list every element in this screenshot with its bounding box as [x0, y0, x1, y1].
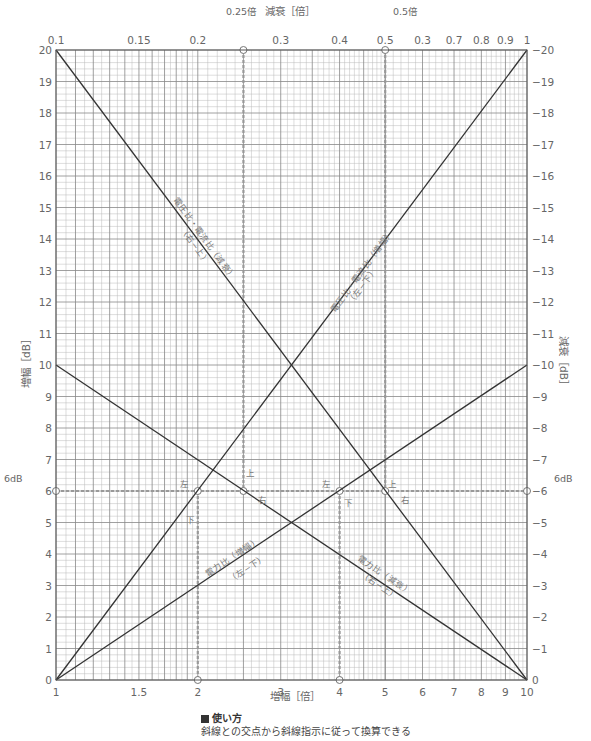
usage-note: 使い方 斜線との交点から斜線指示に従って換算できる [201, 712, 411, 738]
x-top-tick: 0.7 [446, 34, 463, 46]
callout-6db-left: 6dB [4, 473, 23, 484]
x-top-tick: 0.3 [414, 34, 431, 46]
x-bottom-tick: 1 [53, 686, 60, 698]
y-left-tick: 2 [45, 611, 52, 623]
callouts: 0.25倍 減衰［倍］ 0.5倍 増幅［倍］ 増幅［dB］ 減衰［dB］ 6dB… [4, 5, 573, 702]
y-left-tick: 6 [45, 485, 52, 497]
y-left-tick: 9 [45, 391, 52, 403]
v-att-label: 電圧比・電流比（減衰） [171, 195, 237, 281]
marker-left-4: 左 [322, 479, 331, 489]
y-right-tick: −4 [532, 548, 548, 560]
y-left-tick: 5 [45, 517, 52, 529]
usage-text: 斜線との交点から斜線指示に従って換算できる [201, 725, 411, 738]
x-top-tick: 0.8 [473, 34, 490, 46]
y-left-tick: 8 [45, 422, 52, 434]
square-bullet-icon [201, 715, 209, 723]
x-top-tick: 1 [524, 34, 531, 46]
decibel-conversion-chart: 11.523456789100.10.150.20.30.40.50.30.70… [0, 0, 591, 741]
callout-05: 0.5倍 [393, 6, 418, 17]
top-axis-title: 減衰［倍］ [265, 5, 315, 17]
y-left-tick: 1 [45, 643, 52, 655]
y-right-tick: −20 [532, 44, 554, 56]
x-bottom-tick: 4 [336, 686, 343, 698]
y-left-tick: 15 [39, 202, 52, 214]
y-left-tick: 4 [45, 548, 52, 560]
y-right-tick: −8 [532, 422, 547, 434]
marker-right-5: 右 [401, 495, 410, 505]
usage-title: 使い方 [212, 713, 242, 724]
y-right-tick: −3 [532, 580, 547, 592]
marker-down-2: 下 [186, 515, 195, 525]
marker-up-25: 上 [246, 468, 255, 478]
x-top-tick: 0.2 [189, 34, 206, 46]
y-right-tick: −1 [532, 643, 547, 655]
callout-6db-right: 6dB [554, 473, 573, 484]
right-axis-title: 減衰［dB］ [558, 336, 570, 390]
y-right-tick: −15 [532, 202, 554, 214]
marker-right-25: 右 [258, 495, 267, 505]
y-right-tick: −11 [532, 328, 554, 340]
y-left-tick: 10 [39, 359, 52, 371]
y-right-tick: 0 [532, 674, 539, 686]
y-left-tick: 19 [39, 76, 52, 88]
y-right-tick: −18 [532, 107, 554, 119]
y-right-tick: −6 [532, 485, 548, 497]
tick-labels: 11.523456789100.10.150.20.30.40.50.30.70… [39, 34, 555, 698]
y-left-tick: 0 [45, 674, 52, 686]
y-left-tick: 13 [39, 265, 52, 277]
x-bottom-tick: 9 [502, 686, 509, 698]
y-right-tick: −14 [532, 233, 554, 245]
marker-up-5: 上 [388, 479, 397, 489]
x-bottom-tick: 2 [194, 686, 201, 698]
x-top-tick: 0.4 [331, 34, 348, 46]
callout-025: 0.25倍 [226, 6, 257, 17]
x-top-tick: 0.3 [272, 34, 289, 46]
x-bottom-tick: 8 [478, 686, 485, 698]
y-left-tick: 18 [39, 107, 52, 119]
bottom-axis-title: 増幅［倍］ [270, 690, 320, 702]
x-top-tick: 0.15 [127, 34, 150, 46]
y-right-tick: −5 [532, 517, 547, 529]
x-bottom-tick: 7 [451, 686, 458, 698]
y-right-tick: −7 [532, 454, 547, 466]
y-right-tick: −17 [532, 139, 554, 151]
y-right-tick: −13 [532, 265, 554, 277]
y-left-tick: 14 [39, 233, 53, 245]
x-bottom-tick: 1.5 [131, 686, 148, 698]
y-left-tick: 12 [39, 296, 52, 308]
y-left-tick: 16 [39, 170, 53, 182]
y-right-tick: −10 [532, 359, 554, 371]
x-bottom-tick: 10 [520, 686, 533, 698]
marker-down-4: 下 [344, 498, 353, 508]
x-bottom-tick: 6 [419, 686, 426, 698]
x-top-tick: 0.9 [497, 34, 514, 46]
y-left-tick: 17 [39, 139, 52, 151]
y-right-tick: −19 [532, 76, 554, 88]
y-left-tick: 20 [39, 44, 52, 56]
x-bottom-tick: 5 [382, 686, 389, 698]
y-right-tick: −12 [532, 296, 554, 308]
left-axis-title: 増幅［dB］ [20, 334, 32, 388]
x-top-tick: 0.5 [377, 34, 394, 46]
y-right-tick: −9 [532, 391, 547, 403]
marker-left-2: 左 [180, 479, 189, 489]
y-left-tick: 7 [45, 454, 52, 466]
y-left-tick: 11 [39, 328, 52, 340]
y-left-tick: 3 [45, 580, 52, 592]
y-right-tick: −16 [532, 170, 554, 182]
y-right-tick: −2 [532, 611, 547, 623]
